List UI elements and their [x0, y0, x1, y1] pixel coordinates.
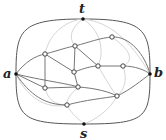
- label-s: s: [80, 127, 87, 140]
- node-n3: [110, 35, 114, 39]
- terminal-a: [14, 72, 18, 76]
- node-n9: [115, 94, 119, 98]
- label-a: a: [3, 67, 11, 80]
- node-n7: [43, 86, 47, 90]
- node-n8: [76, 85, 80, 89]
- terminal-b: [148, 72, 152, 76]
- node-n5: [96, 64, 100, 68]
- terminal-t: [81, 17, 85, 21]
- label-t: t: [79, 2, 85, 15]
- node-n4: [72, 70, 76, 74]
- graph-diagram: [0, 0, 166, 140]
- node-n1: [43, 52, 47, 56]
- label-b: b: [154, 66, 163, 79]
- node-n6: [121, 64, 125, 68]
- node-n10: [65, 103, 69, 107]
- node-n2: [73, 44, 77, 48]
